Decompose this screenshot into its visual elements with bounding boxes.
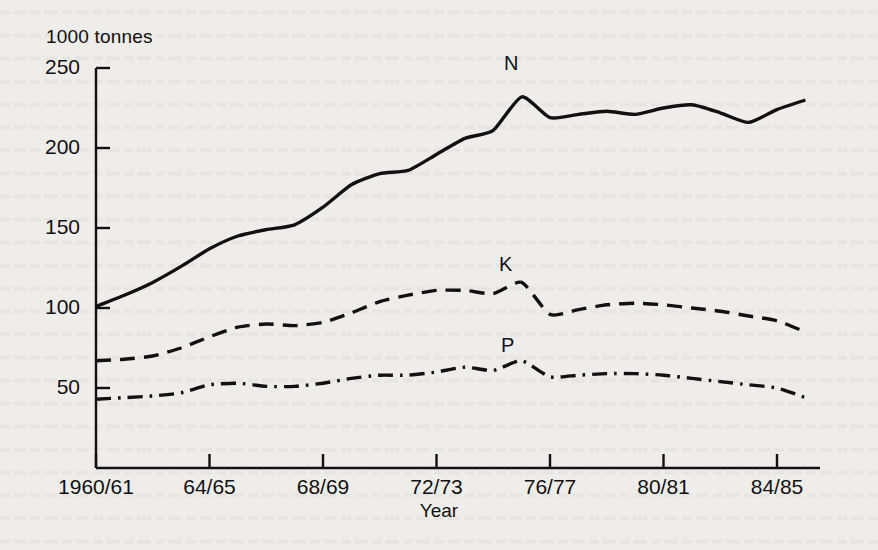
y-tick-label: 200 bbox=[28, 135, 80, 159]
y-axis-ticks bbox=[96, 68, 110, 388]
series-label-k: K bbox=[499, 253, 512, 276]
y-axis-title: 1000 tonnes bbox=[46, 26, 153, 48]
x-tick-label: 84/85 bbox=[702, 475, 852, 499]
series-line-k bbox=[96, 282, 805, 361]
series-lines bbox=[96, 97, 805, 399]
npk-consumption-line-chart: 1000 tonnes Year 50100150200250 1960/616… bbox=[0, 0, 878, 550]
y-tick-label: 250 bbox=[28, 55, 80, 79]
y-tick-label: 50 bbox=[28, 375, 80, 399]
series-line-n bbox=[96, 97, 805, 307]
x-axis-ticks bbox=[96, 454, 777, 468]
series-label-n: N bbox=[504, 52, 518, 75]
series-label-p: P bbox=[501, 334, 514, 357]
plot-area bbox=[0, 0, 878, 550]
x-axis-title: Year bbox=[0, 500, 878, 522]
axes bbox=[96, 68, 820, 468]
series-line-p bbox=[96, 361, 805, 399]
y-tick-label: 150 bbox=[28, 215, 80, 239]
y-tick-label: 100 bbox=[28, 295, 80, 319]
